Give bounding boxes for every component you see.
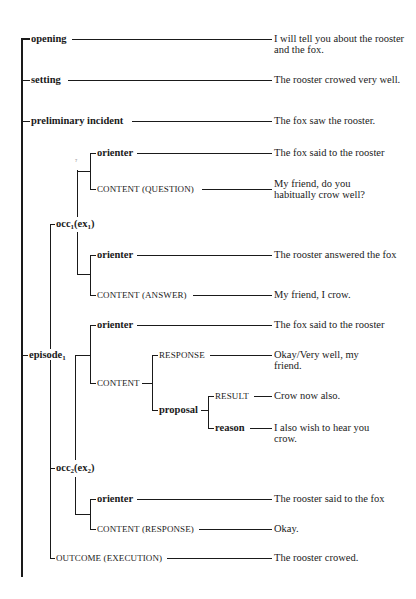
text-opening: I will tell you about the rooster and th… xyxy=(273,34,414,55)
node-occ1-content-answer: CONTENT (ANSWER) xyxy=(96,290,188,301)
text-occ1-orienter: The fox said to the rooster xyxy=(273,148,414,159)
node-occ1-orienter-2: orienter xyxy=(96,249,134,260)
text-occ2-content-response: Okay. xyxy=(273,524,414,535)
text-preliminary-incident: The fox saw the rooster. xyxy=(273,116,414,127)
node-episode1: episode1 xyxy=(28,349,67,360)
node-outcome-execution: OUTCOME (EXECUTION) xyxy=(55,553,163,564)
text-occ1-content-question: My friend, do you habitually crow well? xyxy=(273,179,374,200)
node-occ2-content-response: CONTENT (RESPONSE) xyxy=(96,524,195,535)
node-occ2-orienter: orienter xyxy=(96,493,134,504)
text-occ1-content-answer: My friend, I crow. xyxy=(273,290,414,301)
node-opening: opening xyxy=(30,33,68,44)
text-response: Okay/Very well, my friend. xyxy=(273,350,384,371)
node-proposal: proposal xyxy=(158,404,199,415)
node-occ1-content-question: CONTENT (QUESTION) xyxy=(96,184,195,195)
node-occ1-orienter: orienter xyxy=(96,147,134,158)
node-episode1-orienter: orienter xyxy=(96,319,134,330)
node-preliminary-incident: preliminary incident xyxy=(30,115,124,126)
text-occ2-orienter: The rooster said to the fox xyxy=(273,494,414,505)
node-response: RESPONSE xyxy=(158,350,206,361)
text-setting: The rooster crowed very well. xyxy=(273,75,414,86)
text-reason: I also wish to hear you crow. xyxy=(273,423,389,444)
node-occ2: occ2(ex2) xyxy=(55,462,96,473)
text-outcome-execution: The rooster crowed. xyxy=(273,553,414,564)
node-setting: setting xyxy=(30,74,62,85)
text-episode1-orienter: The fox said to the rooster xyxy=(273,320,414,331)
tick-mark: ? xyxy=(75,158,77,163)
node-result: RESULT xyxy=(214,391,250,402)
text-result: Crow now also. xyxy=(273,391,414,402)
node-occ1: occ1(ex1) xyxy=(55,218,96,229)
text-occ1-orienter-2: The rooster answered the fox xyxy=(273,250,414,261)
node-reason: reason xyxy=(214,422,246,433)
node-content: CONTENT xyxy=(96,378,141,389)
